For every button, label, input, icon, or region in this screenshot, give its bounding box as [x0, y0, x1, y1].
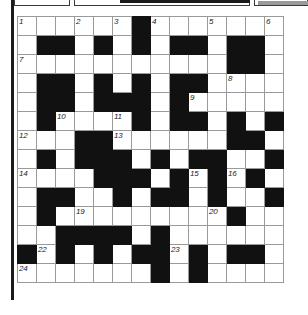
crossword-cell[interactable]: 10 — [56, 112, 75, 131]
crossword-cell[interactable] — [113, 55, 132, 74]
crossword-cell[interactable] — [265, 55, 284, 74]
crossword-cell[interactable] — [151, 169, 170, 188]
crossword-cell[interactable]: 14 — [18, 169, 37, 188]
crossword-cell[interactable] — [265, 36, 284, 55]
crossword-cell[interactable]: 1 — [18, 17, 37, 36]
crossword-cell[interactable] — [151, 131, 170, 150]
crossword-cell[interactable] — [132, 55, 151, 74]
crossword-cell[interactable]: 19 — [75, 207, 94, 226]
crossword-cell[interactable]: 4 — [151, 17, 170, 36]
crossword-cell[interactable] — [18, 150, 37, 169]
crossword-cell[interactable] — [227, 17, 246, 36]
crossword-cell[interactable] — [113, 264, 132, 283]
crossword-cell[interactable] — [246, 226, 265, 245]
crossword-cell[interactable] — [75, 112, 94, 131]
crossword-cell[interactable] — [113, 74, 132, 93]
crossword-cell[interactable] — [132, 207, 151, 226]
crossword-cell[interactable] — [246, 17, 265, 36]
crossword-cell[interactable] — [189, 226, 208, 245]
crossword-cell[interactable] — [75, 245, 94, 264]
crossword-cell[interactable] — [37, 131, 56, 150]
crossword-cell[interactable] — [208, 264, 227, 283]
crossword-cell[interactable] — [265, 207, 284, 226]
crossword-cell[interactable] — [227, 188, 246, 207]
crossword-cell[interactable]: 7 — [18, 55, 37, 74]
crossword-cell[interactable] — [246, 207, 265, 226]
crossword-cell[interactable] — [151, 55, 170, 74]
crossword-cell[interactable] — [37, 169, 56, 188]
crossword-cell[interactable] — [265, 131, 284, 150]
crossword-cell[interactable] — [151, 112, 170, 131]
crossword-cell[interactable]: 13 — [113, 131, 132, 150]
crossword-cell[interactable]: 16 — [227, 169, 246, 188]
crossword-cell[interactable] — [189, 188, 208, 207]
crossword-cell[interactable] — [227, 93, 246, 112]
crossword-cell[interactable] — [265, 74, 284, 93]
crossword-cell[interactable] — [265, 245, 284, 264]
crossword-cell[interactable] — [208, 226, 227, 245]
crossword-cell[interactable] — [189, 207, 208, 226]
crossword-cell[interactable] — [227, 264, 246, 283]
crossword-cell[interactable] — [113, 207, 132, 226]
crossword-cell[interactable] — [246, 112, 265, 131]
crossword-cell[interactable] — [132, 131, 151, 150]
crossword-cell[interactable] — [75, 74, 94, 93]
crossword-cell[interactable] — [265, 264, 284, 283]
crossword-cell[interactable] — [56, 150, 75, 169]
crossword-cell[interactable] — [189, 55, 208, 74]
crossword-cell[interactable] — [170, 150, 189, 169]
crossword-cell[interactable] — [18, 226, 37, 245]
crossword-cell[interactable] — [246, 150, 265, 169]
crossword-cell[interactable] — [246, 93, 265, 112]
crossword-cell[interactable] — [56, 55, 75, 74]
crossword-cell[interactable] — [37, 226, 56, 245]
crossword-cell[interactable]: 22 — [37, 245, 56, 264]
crossword-cell[interactable]: 20 — [208, 207, 227, 226]
crossword-cell[interactable] — [94, 55, 113, 74]
crossword-cell[interactable] — [18, 112, 37, 131]
crossword-cell[interactable] — [18, 93, 37, 112]
crossword-cell[interactable] — [170, 55, 189, 74]
crossword-cell[interactable] — [56, 131, 75, 150]
crossword-cell[interactable] — [265, 169, 284, 188]
crossword-cell[interactable] — [75, 93, 94, 112]
crossword-cell[interactable] — [170, 226, 189, 245]
crossword-cell[interactable] — [94, 188, 113, 207]
crossword-cell[interactable] — [94, 112, 113, 131]
crossword-cell[interactable] — [37, 264, 56, 283]
crossword-cell[interactable] — [75, 264, 94, 283]
crossword-cell[interactable] — [56, 207, 75, 226]
crossword-cell[interactable]: 15 — [189, 169, 208, 188]
crossword-cell[interactable] — [132, 264, 151, 283]
crossword-cell[interactable]: 23 — [170, 245, 189, 264]
crossword-grid[interactable]: 123456789101112131415161920222324 — [17, 16, 284, 283]
crossword-cell[interactable]: 5 — [208, 17, 227, 36]
crossword-cell[interactable] — [265, 93, 284, 112]
crossword-cell[interactable]: 12 — [18, 131, 37, 150]
crossword-cell[interactable] — [246, 264, 265, 283]
crossword-cell[interactable] — [94, 264, 113, 283]
crossword-cell[interactable] — [189, 17, 208, 36]
crossword-cell[interactable] — [113, 36, 132, 55]
crossword-cell[interactable] — [151, 36, 170, 55]
crossword-cell[interactable] — [170, 131, 189, 150]
crossword-cell[interactable]: 8 — [227, 74, 246, 93]
crossword-cell[interactable] — [113, 245, 132, 264]
crossword-cell[interactable]: 3 — [113, 17, 132, 36]
crossword-cell[interactable] — [132, 188, 151, 207]
crossword-cell[interactable] — [94, 207, 113, 226]
crossword-cell[interactable] — [265, 226, 284, 245]
crossword-cell[interactable] — [132, 150, 151, 169]
crossword-cell[interactable] — [151, 207, 170, 226]
crossword-cell[interactable] — [246, 188, 265, 207]
crossword-cell[interactable]: 24 — [18, 264, 37, 283]
crossword-cell[interactable] — [75, 55, 94, 74]
crossword-cell[interactable] — [227, 150, 246, 169]
crossword-cell[interactable] — [208, 93, 227, 112]
crossword-cell[interactable] — [208, 36, 227, 55]
crossword-cell[interactable] — [56, 169, 75, 188]
crossword-cell[interactable] — [132, 226, 151, 245]
crossword-cell[interactable] — [37, 17, 56, 36]
crossword-cell[interactable] — [56, 264, 75, 283]
crossword-cell[interactable]: 9 — [189, 93, 208, 112]
